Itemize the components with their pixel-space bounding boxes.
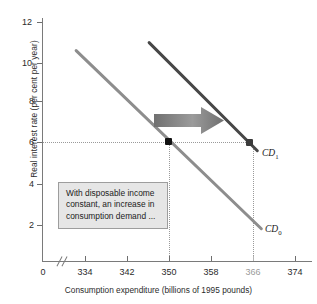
x-tick-label-374: 374 — [279, 267, 311, 277]
x-tick-mark-366 — [253, 256, 254, 261]
equilibrium-point-cd1 — [246, 139, 253, 146]
y-tick-mark-6 — [37, 142, 42, 143]
equilibrium-point-cd0 — [165, 138, 172, 145]
x-tick-mark-334 — [85, 256, 86, 261]
x-tick-label-366: 366 — [237, 267, 269, 277]
y-tick-label-4: 4 — [12, 179, 34, 189]
y-tick-label-8: 8 — [12, 96, 34, 106]
y-tick-mark-10 — [37, 63, 42, 64]
y-tick-mark-8 — [37, 101, 42, 102]
x-tick-label-334: 334 — [69, 267, 101, 277]
curve-label-cd0-sub: 0 — [278, 229, 281, 236]
y-tick-label-2: 2 — [12, 220, 34, 230]
y-tick-mark-4 — [37, 184, 42, 185]
x-tick-label-358: 358 — [195, 267, 227, 277]
callout-line-2: constant, an increase in — [66, 199, 161, 210]
origin-label: 0 — [27, 267, 59, 277]
y-tick-label-10: 10 — [10, 58, 32, 68]
x-tick-mark-342 — [127, 256, 128, 261]
x-tick-mark-358 — [211, 256, 212, 261]
chart-figure: Real interest rate (per cent per year) C… — [0, 0, 317, 304]
curve-label-cd0-text: CD — [265, 224, 278, 234]
guide-line-quantity-350 — [169, 145, 170, 256]
curve-label-cd0: CD0 — [265, 224, 282, 236]
curve-label-cd1-sub: 1 — [275, 153, 278, 160]
curve-label-cd1: CD1 — [262, 148, 279, 160]
shift-arrow-icon — [154, 107, 226, 135]
callout-line-1: With disposable income — [66, 188, 161, 199]
callout-note: With disposable income constant, an incr… — [58, 182, 168, 229]
y-tick-label-12: 12 — [10, 17, 32, 27]
x-axis-title: Consumption expenditure (billions of 199… — [0, 285, 317, 295]
y-tick-label-6: 6 — [12, 137, 34, 147]
y-axis-line — [42, 18, 43, 262]
x-tick-label-342: 342 — [111, 267, 143, 277]
y-tick-mark-12 — [37, 22, 42, 23]
guide-line-quantity-366 — [253, 146, 254, 256]
y-axis-title: Real interest rate (per cent per year) — [29, 19, 39, 199]
x-tick-mark-374 — [295, 256, 296, 261]
guide-line-rate-6 — [43, 142, 250, 143]
x-axis-line — [42, 261, 312, 262]
y-tick-mark-2 — [37, 225, 42, 226]
callout-line-3: consumption demand ... — [66, 211, 161, 222]
x-tick-mark-350 — [169, 256, 170, 261]
curve-label-cd1-text: CD — [262, 148, 275, 158]
x-tick-label-350: 350 — [153, 267, 185, 277]
